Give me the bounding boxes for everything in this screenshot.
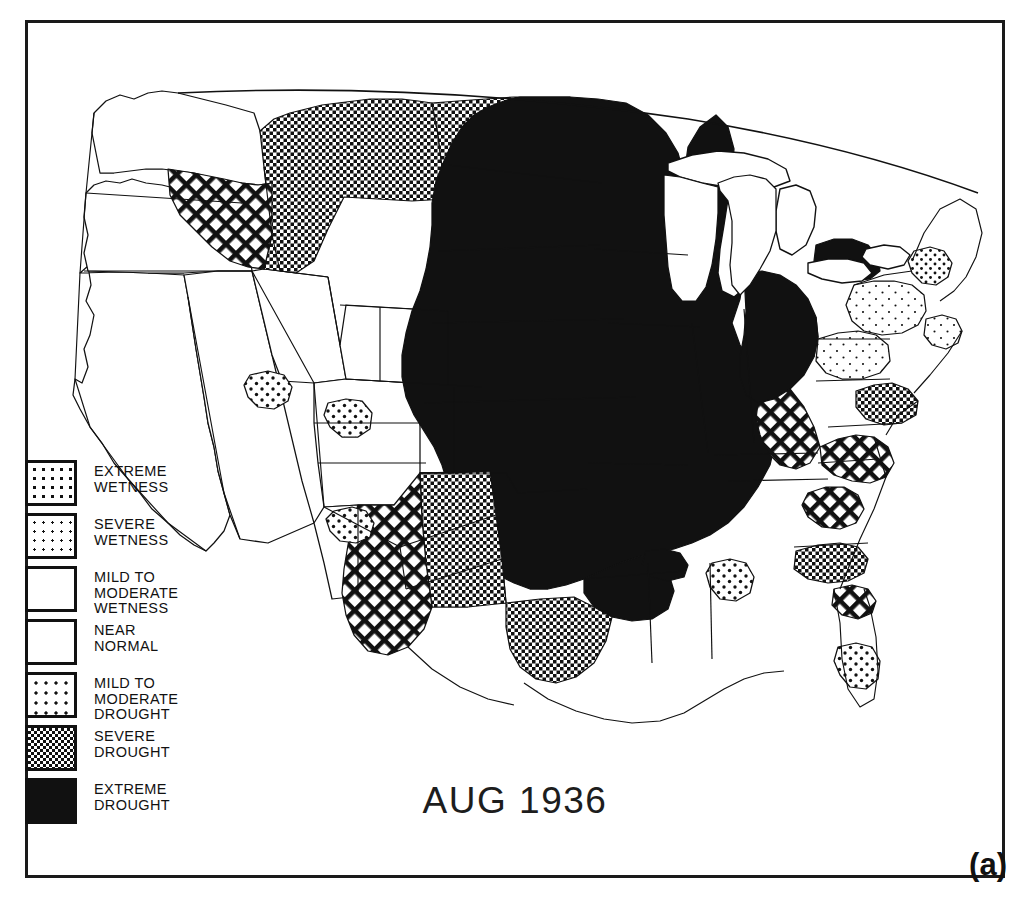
legend-item: NEAR NORMAL — [25, 619, 265, 672]
legend-swatch-severe-wetness — [25, 513, 77, 559]
region-pennsylvania-severe-wetness — [816, 331, 890, 379]
region-north-florida-severe-drought — [794, 543, 868, 583]
legend-label-severe-drought: SEVERE DROUGHT — [94, 725, 170, 760]
lake-huron — [776, 185, 816, 255]
figure-container: AUG 1936 (a) EXTREME WETNESS SEVERE WETN… — [0, 0, 1029, 901]
legend-item: EXTREME DROUGHT — [25, 778, 265, 831]
region-ohio-valley-extreme-drought — [740, 271, 818, 403]
legend-label-near-normal: NEAR NORMAL — [94, 619, 158, 654]
legend-item: MILD TO MODERATE DROUGHT — [25, 672, 265, 725]
legend-swatch-near-normal — [25, 619, 77, 665]
legend-label-extreme-wetness: EXTREME WETNESS — [94, 460, 169, 495]
legend-label-extreme-drought: EXTREME DROUGHT — [94, 778, 170, 813]
map-legend: EXTREME WETNESS SEVERE WETNESS MILD TO M… — [25, 460, 265, 831]
legend-label-mild-moderate-drought: MILD TO MODERATE DROUGHT — [94, 672, 178, 723]
region-east-texas-severe-drought — [506, 597, 612, 683]
region-massachusetts-wetness — [924, 315, 962, 349]
legend-swatch-mild-moderate-wetness — [25, 566, 77, 612]
region-texas-panhandle-severe-drought — [420, 471, 506, 607]
legend-swatch-severe-drought — [25, 725, 77, 771]
lake-erie — [808, 259, 872, 283]
legend-label-mild-moderate-wetness: MILD TO MODERATE WETNESS — [94, 566, 178, 617]
legend-swatch-extreme-wetness — [25, 460, 77, 506]
legend-swatch-mild-moderate-drought — [25, 672, 77, 718]
legend-item: SEVERE WETNESS — [25, 513, 265, 566]
region-new-york-severe-wetness — [846, 281, 926, 335]
legend-item: SEVERE DROUGHT — [25, 725, 265, 778]
legend-swatch-extreme-drought — [25, 778, 77, 824]
region-alabama-mild-drought — [706, 559, 754, 601]
region-carolinas-severe-drought-open — [820, 435, 894, 483]
region-south-florida-mild-drought — [834, 643, 880, 689]
legend-label-severe-wetness: SEVERE WETNESS — [94, 513, 169, 548]
region-new-england-extreme-wetness — [908, 247, 952, 285]
region-georgia-severe-drought-open — [802, 487, 864, 529]
legend-item: EXTREME WETNESS — [25, 460, 265, 513]
region-virginia-severe-drought — [856, 383, 918, 425]
region-montana-idaho-severe-drought — [260, 99, 446, 273]
legend-item: MILD TO MODERATE WETNESS — [25, 566, 265, 619]
panel-label: (a) — [969, 847, 1007, 883]
